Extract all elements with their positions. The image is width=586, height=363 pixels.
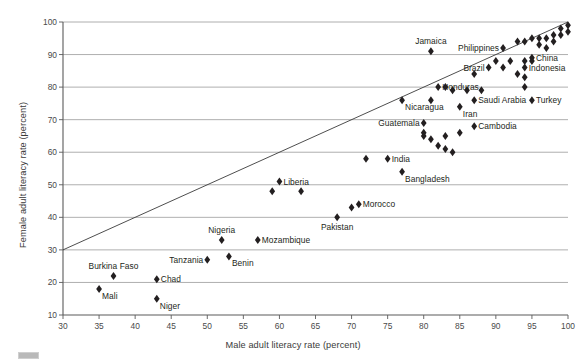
data-point-label: Bangladesh <box>405 174 450 184</box>
x-tick-label: 85 <box>455 321 464 331</box>
data-point-label: Benin <box>232 258 254 268</box>
data-point-label: Mali <box>102 291 118 301</box>
data-point-label: Morocco <box>363 199 395 209</box>
data-point-marker[interactable] <box>493 57 499 65</box>
y-axis-title: Female adult literacy rate (percent) <box>18 102 28 248</box>
x-tick-label: 35 <box>94 321 103 331</box>
data-point-marker[interactable] <box>255 236 261 244</box>
y-tick-label: 100 <box>33 17 57 27</box>
data-point-label: Mozambique <box>262 235 310 245</box>
data-point-marker[interactable] <box>500 64 506 72</box>
data-point-marker[interactable] <box>522 73 528 81</box>
data-point-marker[interactable] <box>543 44 549 52</box>
data-point-marker[interactable] <box>111 272 117 280</box>
y-tick-label: 10 <box>33 310 57 320</box>
data-point-marker[interactable] <box>457 129 463 137</box>
data-point-label: Turkey <box>536 95 562 105</box>
data-point-marker[interactable] <box>522 57 528 65</box>
data-point-label: India <box>392 154 410 164</box>
data-point-marker[interactable] <box>435 142 441 150</box>
x-tick-label: 30 <box>58 321 67 331</box>
data-point-marker[interactable] <box>277 178 283 186</box>
data-point-marker[interactable] <box>543 34 549 42</box>
data-point-label: Saudi Arabia <box>478 95 526 105</box>
data-point-label: Chad <box>161 274 181 284</box>
x-tick-label: 70 <box>347 321 356 331</box>
data-point-label: Indonesia <box>529 63 566 73</box>
data-point-marker[interactable] <box>421 119 427 127</box>
data-point-marker[interactable] <box>435 83 441 91</box>
data-point-label: Jamaica <box>415 36 447 46</box>
data-point-marker[interactable] <box>479 86 485 94</box>
data-point-marker[interactable] <box>515 70 521 78</box>
data-point-marker[interactable] <box>558 31 564 39</box>
data-point-marker[interactable] <box>529 96 535 104</box>
data-point-label: China <box>536 53 558 63</box>
data-point-marker[interactable] <box>486 64 492 72</box>
data-point-marker[interactable] <box>154 275 160 283</box>
y-tick-label: 40 <box>33 212 57 222</box>
x-axis-title: Male adult literacy rate (percent) <box>0 340 586 350</box>
data-point-label: Honduras <box>442 82 479 92</box>
data-point-marker[interactable] <box>442 132 448 140</box>
data-point-label: Guatemala <box>378 118 419 128</box>
x-tick-label: 60 <box>275 321 284 331</box>
data-point-label: Burkina Faso <box>89 261 139 271</box>
x-tick-label: 80 <box>419 321 428 331</box>
data-point-marker[interactable] <box>522 83 528 91</box>
data-point-label: Nigeria <box>208 225 235 235</box>
x-tick-label: 90 <box>491 321 500 331</box>
y-tick-label: 80 <box>33 82 57 92</box>
data-point-marker[interactable] <box>428 47 434 55</box>
y-tick-label: 30 <box>33 245 57 255</box>
data-point-label: Tanzania <box>169 255 203 265</box>
data-point-label: Niger <box>160 301 180 311</box>
data-point-marker[interactable] <box>536 41 542 49</box>
data-point-marker[interactable] <box>522 38 528 46</box>
data-point-label: Philippines <box>458 43 499 53</box>
data-point-label: Liberia <box>283 177 309 187</box>
y-tick-label: 70 <box>33 115 57 125</box>
data-point-marker[interactable] <box>529 34 535 42</box>
equality-reference-line <box>63 22 568 250</box>
data-point-marker[interactable] <box>334 213 340 221</box>
x-tick-label: 65 <box>311 321 320 331</box>
data-point-marker[interactable] <box>385 155 391 163</box>
y-tick-label: 50 <box>33 180 57 190</box>
data-point-marker[interactable] <box>551 38 557 46</box>
x-tick-label: 45 <box>167 321 176 331</box>
x-tick-label: 100 <box>561 321 575 331</box>
data-point-label: Brazil <box>463 63 484 73</box>
data-point-marker[interactable] <box>442 145 448 153</box>
data-point-marker[interactable] <box>219 236 225 244</box>
x-tick-label: 95 <box>527 321 536 331</box>
scatter-plot-figure: Male adult literacy rate (percent) Femal… <box>0 0 586 363</box>
data-point-label: Cambodia <box>478 121 517 131</box>
x-tick-label: 75 <box>383 321 392 331</box>
data-point-marker[interactable] <box>428 135 434 143</box>
data-point-marker[interactable] <box>471 96 477 104</box>
data-point-marker[interactable] <box>356 200 362 208</box>
data-point-marker[interactable] <box>565 28 571 36</box>
data-point-marker[interactable] <box>298 187 304 195</box>
data-point-label: Pakistan <box>321 222 354 232</box>
data-point-marker[interactable] <box>269 187 275 195</box>
data-point-label: Nicaragua <box>405 102 444 112</box>
x-tick-label: 50 <box>203 321 212 331</box>
x-tick-label: 55 <box>239 321 248 331</box>
y-tick-label: 90 <box>33 50 57 60</box>
corner-marker <box>18 352 39 359</box>
data-point-marker[interactable] <box>363 155 369 163</box>
data-point-marker[interactable] <box>204 256 210 264</box>
data-point-marker[interactable] <box>471 122 477 130</box>
data-point-marker[interactable] <box>507 57 513 65</box>
data-point-marker[interactable] <box>450 148 456 156</box>
y-tick-label: 60 <box>33 147 57 157</box>
data-point-marker[interactable] <box>349 204 355 212</box>
data-point-label: Iran <box>463 109 478 119</box>
x-tick-label: 40 <box>130 321 139 331</box>
y-tick-label: 20 <box>33 277 57 287</box>
